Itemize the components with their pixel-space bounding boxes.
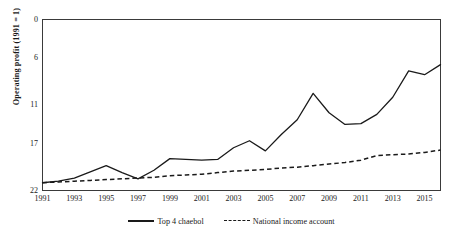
series-line-national-income-account bbox=[43, 150, 441, 183]
legend-label: Top 4 chaebol bbox=[157, 217, 203, 226]
x-tick-label: 1993 bbox=[59, 195, 89, 203]
x-tick-label: 2003 bbox=[219, 195, 249, 203]
x-tick-label: 2011 bbox=[346, 195, 376, 203]
x-tick-label: 2007 bbox=[282, 195, 312, 203]
series-line-top-4-chaebol bbox=[43, 65, 441, 183]
solid-line-icon bbox=[128, 217, 154, 225]
x-tick-label: 2009 bbox=[314, 195, 344, 203]
x-tick-label: 2001 bbox=[187, 195, 217, 203]
plot-frame bbox=[43, 20, 441, 191]
x-tick-label: 1991 bbox=[28, 195, 58, 203]
x-tick-label: 1999 bbox=[155, 195, 185, 203]
dashed-line-icon bbox=[224, 217, 250, 225]
legend-item-national-income-account: National income account bbox=[224, 216, 335, 226]
chart-container: Operating profit (1991 = 1) 22 17 11 6 0… bbox=[0, 0, 463, 236]
x-tick-label: 1997 bbox=[123, 195, 153, 203]
x-tick-label: 2005 bbox=[250, 195, 280, 203]
x-tick-label: 1995 bbox=[91, 195, 121, 203]
legend-label: National income account bbox=[253, 217, 335, 226]
x-tick-label: 2013 bbox=[378, 195, 408, 203]
legend-item-top-4-chaebol: Top 4 chaebol bbox=[128, 216, 203, 226]
chart-legend: Top 4 chaebol National income account bbox=[0, 216, 463, 226]
x-tick-label: 2015 bbox=[410, 195, 440, 203]
